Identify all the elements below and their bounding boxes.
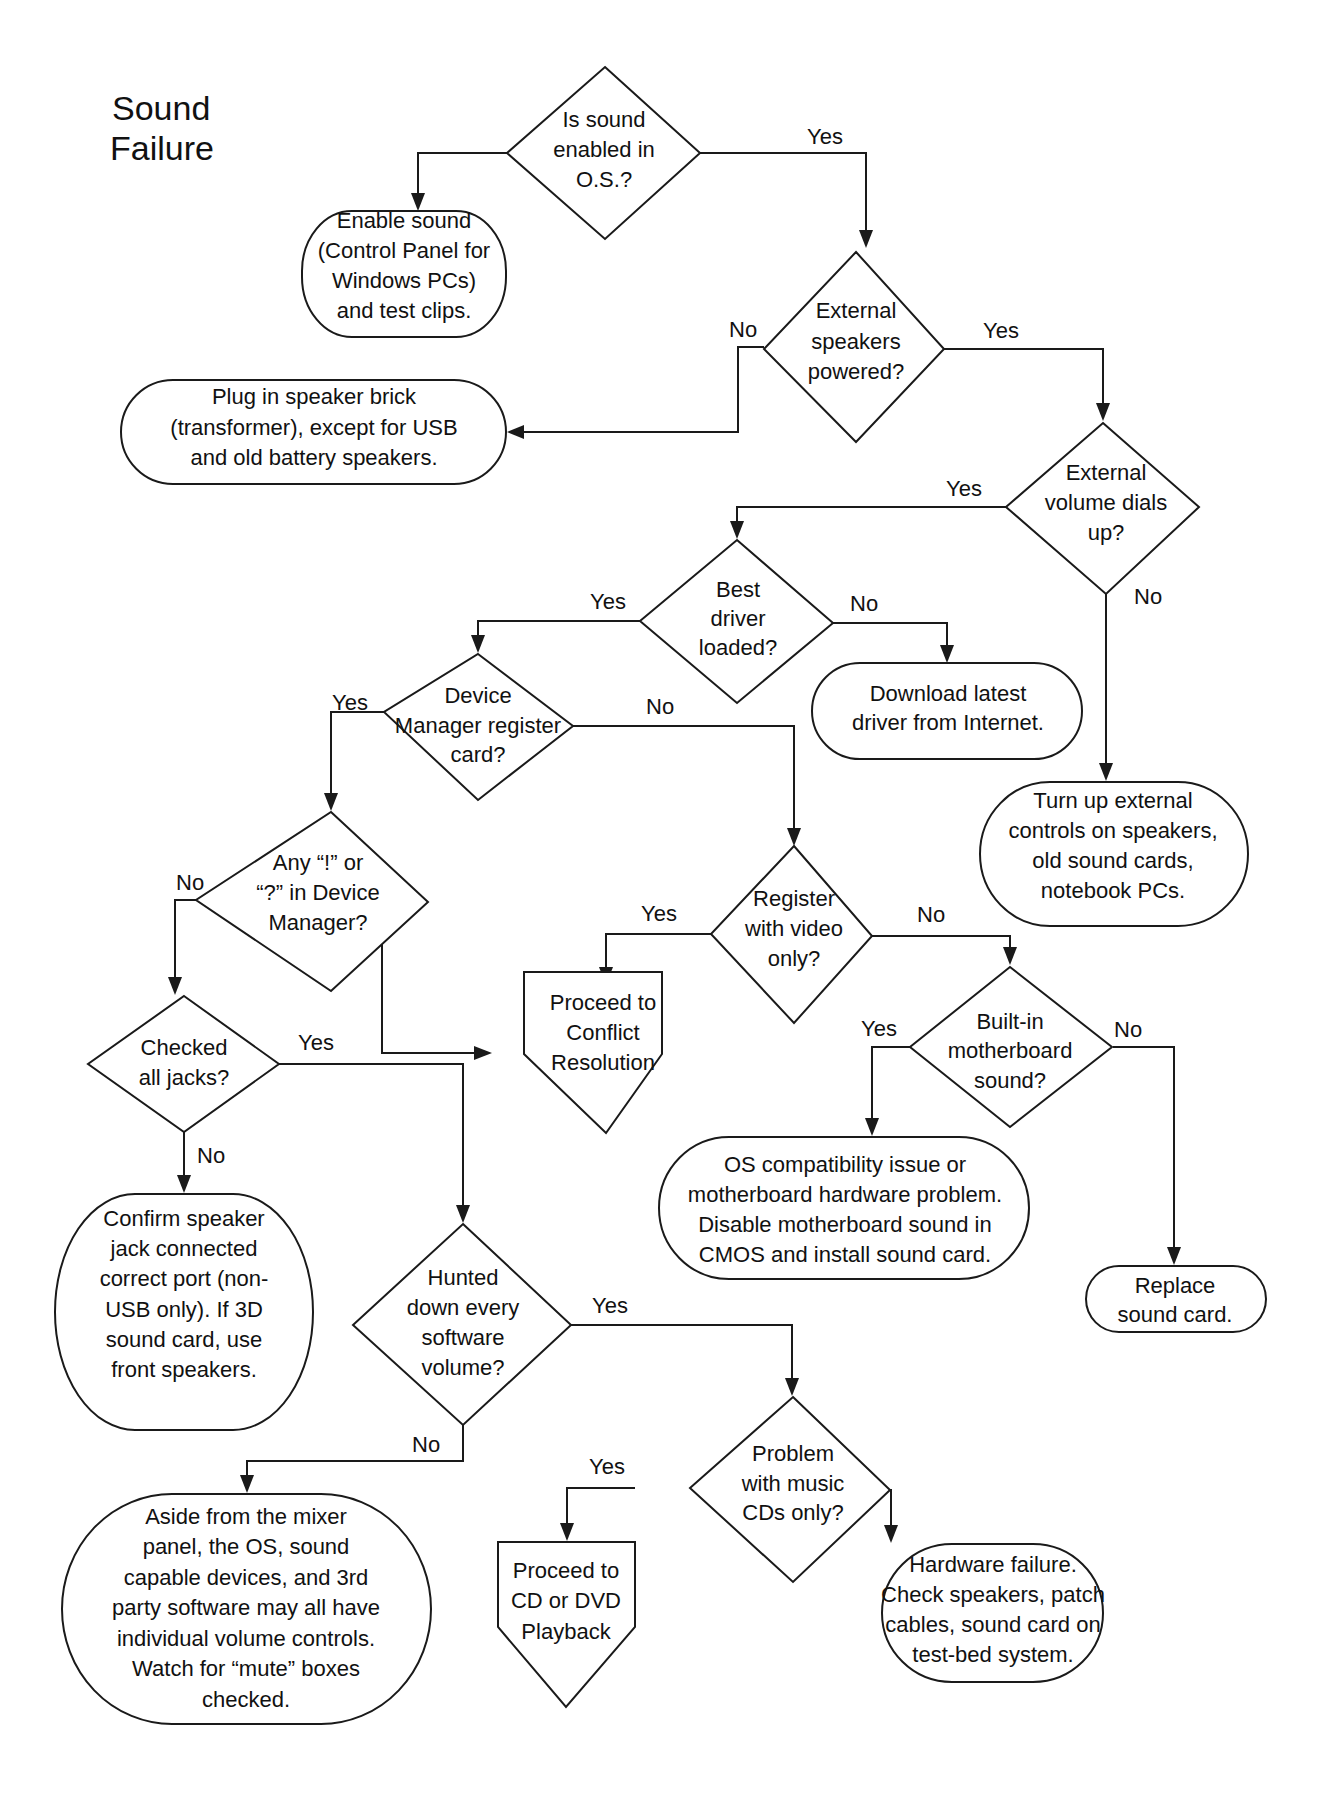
terminal-text: individual volume controls. <box>117 1626 375 1651</box>
decision-text: all jacks? <box>139 1065 229 1090</box>
decision-text: only? <box>768 946 821 971</box>
edge-d1-d2 <box>700 153 866 245</box>
terminal-text: Aside from the mixer <box>145 1504 347 1529</box>
terminal-text: old sound cards, <box>1032 848 1193 873</box>
decision-text: motherboard <box>948 1038 1073 1063</box>
decision-text: volume dials <box>1045 490 1167 515</box>
terminal-text: jack connected <box>110 1236 258 1261</box>
terminal-text: and old battery speakers. <box>190 445 437 470</box>
edge-d8-t7 <box>1113 1047 1174 1262</box>
edge-d2-t2 <box>510 347 764 432</box>
terminal-text: (Control Panel for <box>318 238 490 263</box>
edge-label-d4-no: No <box>850 591 878 616</box>
terminal-text: sound card. <box>1118 1302 1233 1327</box>
decision-text: Register <box>753 886 835 911</box>
decision-text: Hunted <box>428 1265 499 1290</box>
arrowhead-icon <box>859 230 873 248</box>
terminal-text: party software may all have <box>112 1595 380 1620</box>
offpage-text: Proceed to <box>513 1558 619 1583</box>
decision-hunted-volume: Hunted down every software volume? <box>353 1224 571 1425</box>
decision-music-cds: Problem with music CDs only? <box>690 1397 890 1582</box>
decision-text: CDs only? <box>742 1500 843 1525</box>
edge-label-d3-no: No <box>1134 584 1162 609</box>
arrowhead-icon <box>1096 403 1110 421</box>
title-line-2: Failure <box>110 129 214 167</box>
terminal-text: Plug in speaker brick <box>212 384 417 409</box>
terminal-text: Replace <box>1135 1273 1216 1298</box>
terminal-text: Download latest <box>870 681 1027 706</box>
decision-best-driver: Best driver loaded? <box>640 540 833 703</box>
terminal-text: panel, the OS, sound <box>143 1534 350 1559</box>
edge-label-d9-no: No <box>197 1143 225 1168</box>
decision-text: O.S.? <box>576 167 632 192</box>
arrowhead-icon <box>560 1523 574 1541</box>
offpage-text: Proceed to <box>550 990 656 1015</box>
edge-d4-d5 <box>478 621 640 650</box>
decision-text: Best <box>716 577 760 602</box>
decision-text: volume? <box>421 1355 504 1380</box>
edge-d5-d6 <box>331 712 384 808</box>
terminal-text: Windows PCs) <box>332 268 476 293</box>
offpage-text: Playback <box>521 1619 611 1644</box>
terminal-text: USB only). If 3D <box>105 1297 263 1322</box>
decision-text: speakers <box>811 329 900 354</box>
terminal-text: (transformer), except for USB <box>170 415 457 440</box>
terminal-turn-up-controls: Turn up external controls on speakers, o… <box>980 782 1248 926</box>
terminal-text: Turn up external <box>1033 788 1192 813</box>
offpage-conflict-resolution[interactable]: Proceed to Conflict Resolution <box>524 972 662 1133</box>
edge-label-d2-no: No <box>729 317 757 342</box>
arrowhead-icon <box>865 1118 879 1136</box>
terminal-os-compatibility: OS compatibility issue or motherboard ha… <box>659 1137 1029 1279</box>
decision-text: powered? <box>808 359 905 384</box>
arrowhead-icon <box>177 1175 191 1193</box>
arrowhead-icon <box>1099 763 1113 781</box>
offpage-cd-dvd-playback[interactable]: Proceed to CD or DVD Playback <box>498 1542 635 1707</box>
terminal-text: sound card, use <box>106 1327 263 1352</box>
terminal-plug-in-brick: Plug in speaker brick (transformer), exc… <box>121 380 506 484</box>
edge-label-d10-no: No <box>412 1432 440 1457</box>
terminal-text: Disable motherboard sound in <box>698 1212 992 1237</box>
decision-text: loaded? <box>699 635 777 660</box>
decision-register-video: Register with video only? <box>711 846 872 1023</box>
terminal-text: Check speakers, patch <box>881 1582 1105 1607</box>
decision-text: software <box>421 1325 504 1350</box>
decision-text: sound? <box>974 1068 1046 1093</box>
terminal-enable-sound: Enable sound (Control Panel for Windows … <box>302 208 506 337</box>
terminal-text: cables, sound card on <box>885 1612 1100 1637</box>
arrowhead-icon <box>474 1046 492 1060</box>
decision-text: Built-in <box>976 1009 1043 1034</box>
edge-d10-d11 <box>571 1325 792 1393</box>
edge-d11-p2 <box>567 1488 635 1538</box>
terminal-text: Hardware failure. <box>909 1552 1077 1577</box>
edge-label-d7-no: No <box>917 902 945 927</box>
edge-label-d5-no: No <box>646 694 674 719</box>
decision-text: Device <box>444 683 511 708</box>
terminal-text: notebook PCs. <box>1041 878 1185 903</box>
arrowhead-icon <box>730 521 744 539</box>
terminal-text: driver from Internet. <box>852 710 1044 735</box>
decision-text: enabled in <box>553 137 655 162</box>
terminal-text: test-bed system. <box>912 1642 1073 1667</box>
terminal-text: correct port (non- <box>100 1266 269 1291</box>
decision-speakers-powered: External speakers powered? <box>764 252 944 442</box>
decision-text: Checked <box>141 1035 228 1060</box>
decision-text: “?” in Device <box>256 880 379 905</box>
edge-label-d3-yes: Yes <box>946 476 982 501</box>
arrowhead-icon <box>787 828 801 846</box>
edge-d4-t3 <box>833 623 947 660</box>
terminal-text: and test clips. <box>337 298 472 323</box>
decision-text: Any “!” or <box>273 850 363 875</box>
terminal-text: CMOS and install sound card. <box>699 1242 991 1267</box>
decision-device-manager-register: Device Manager register card? <box>384 654 573 800</box>
arrowhead-icon <box>324 793 338 811</box>
flowchart-canvas: Sound Failure <box>0 0 1331 1815</box>
terminal-text: controls on speakers, <box>1008 818 1217 843</box>
terminal-text: front speakers. <box>111 1357 257 1382</box>
terminal-text: OS compatibility issue or <box>724 1152 966 1177</box>
decision-text: Manager? <box>268 910 367 935</box>
terminal-text: motherboard hardware problem. <box>688 1182 1002 1207</box>
arrowhead-icon <box>940 645 954 663</box>
arrowhead-icon <box>1003 947 1017 965</box>
edge-label-d11-yes: Yes <box>589 1454 625 1479</box>
decision-text: Problem <box>752 1441 834 1466</box>
